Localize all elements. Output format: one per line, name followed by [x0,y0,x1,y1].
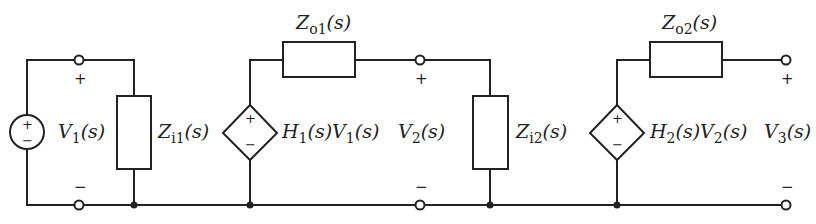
label-v2: V2(s) [398,122,445,141]
dep1-plus-sign: + [245,112,256,125]
terminal-v2-minus [416,201,425,210]
circuit-diagram: + − + − V1(s) Zi1(s) + − H1(s)V1(s) Zo1(… [0,0,816,224]
terminal-v2-plus [416,56,425,65]
wire-dep2-top [617,60,650,105]
v2-plus-sign: + [415,72,428,87]
source-minus-sign: − [22,134,33,147]
v2-minus-sign: − [415,180,428,195]
terminal-v3-plus [782,56,791,65]
label-v1: V1(s) [58,122,105,141]
v1-plus-sign: + [74,72,87,87]
wire-zi2-top [424,60,490,96]
v3-minus-sign: − [781,180,794,195]
wire-dep1-top [250,60,283,105]
junction-dot [247,202,254,209]
label-zi2: Zi2(s) [516,122,567,141]
label-zo1: Zo1(s) [296,13,351,32]
circuit-wires [0,0,816,224]
impedance-zo2 [650,42,722,77]
impedance-zi1 [117,96,151,169]
source-plus-sign: + [22,118,33,131]
label-dep1: H1(s)V1(s) [282,122,379,141]
dep2-minus-sign: − [612,138,623,151]
terminal-v1-minus [75,201,84,210]
wire-source-bottom [27,149,75,205]
terminal-v3-minus [782,201,791,210]
terminal-v1-plus [75,56,84,65]
v3-plus-sign: + [781,72,794,87]
impedance-zo1 [283,42,355,77]
label-v3: V3(s) [764,122,811,141]
dep1-minus-sign: − [245,138,256,151]
label-dep2: H2(s)V2(s) [650,122,747,141]
label-zo2: Zo2(s) [662,13,717,32]
impedance-zi2 [473,96,508,169]
v1-minus-sign: − [74,180,87,195]
dep2-plus-sign: + [612,112,623,125]
junction-dot [131,202,138,209]
wire-zi1-top [83,60,134,96]
junction-dot [614,202,621,209]
junction-dot [487,202,494,209]
label-zi1: Zi1(s) [158,122,209,141]
wire-source-top [27,60,75,115]
